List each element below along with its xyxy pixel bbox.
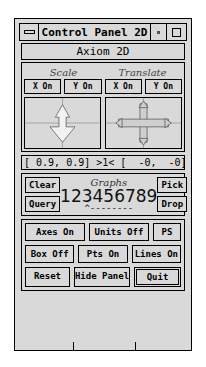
graphs-right-buttons: Pick Drop — [157, 177, 187, 212]
graphs-left-buttons: Clear Query — [25, 177, 60, 212]
quit-button-label: Quit — [136, 269, 179, 285]
quit-button[interactable]: Quit — [134, 267, 181, 287]
clear-button[interactable]: Clear — [25, 177, 60, 193]
panel-subtitle: Axiom 2D — [22, 44, 184, 59]
lines-toggle-button[interactable]: Lines On — [132, 245, 181, 263]
translate-drag-pad[interactable] — [105, 97, 182, 149]
window-title: Control Panel 2D — [39, 23, 151, 41]
transform-headers: Scale Translate — [24, 65, 182, 79]
ps-button[interactable]: PS — [153, 223, 181, 241]
dot-icon — [157, 31, 160, 34]
scale-y-toggle[interactable]: Y On — [64, 79, 101, 94]
panel-subtitle-bar: Axiom 2D — [21, 43, 185, 60]
hide-panel-button[interactable]: Hide Panel — [74, 267, 130, 287]
coordinate-readout: [ 0.9, 0.9] >1< [ -0, -0] — [21, 155, 185, 170]
window-maximize-button[interactable] — [167, 23, 187, 41]
translate-y-toggle[interactable]: Y On — [145, 79, 182, 94]
maximize-square-icon — [172, 28, 181, 37]
graphs-selector[interactable]: Graphs 123456789 ^-------- — [60, 177, 157, 212]
options-group: Axes On Units Off PS Box Off Pts On Line… — [21, 219, 185, 291]
frame-handle-right — [135, 342, 136, 350]
box-toggle-button[interactable]: Box Off — [25, 245, 74, 263]
transform-group: Scale Translate X On Y On X On Y On — [21, 62, 185, 152]
drop-button[interactable]: Drop — [157, 196, 187, 212]
frame-handle-left — [73, 342, 74, 350]
window-menu-button[interactable] — [151, 23, 167, 41]
query-button[interactable]: Query — [25, 196, 60, 212]
axes-toggle-button[interactable]: Axes On — [25, 223, 85, 241]
graphs-group: Clear Query Graphs 123456789 ^-------- P… — [21, 173, 185, 216]
title-bar: Control Panel 2D — [19, 23, 187, 41]
options-row-2: Box Off Pts On Lines On — [25, 245, 181, 263]
translate-header: Translate — [103, 65, 182, 79]
reset-button[interactable]: Reset — [25, 267, 70, 287]
four-way-arrow-icon — [106, 98, 181, 148]
options-row-1: Axes On Units Off PS — [25, 223, 181, 241]
transform-pads — [24, 97, 182, 149]
transform-toggle-row: X On Y On X On Y On — [24, 79, 182, 94]
scale-drag-pad[interactable] — [24, 97, 101, 149]
units-toggle-button[interactable]: Units Off — [89, 223, 149, 241]
graph-selection-marks: ^-------- — [84, 205, 133, 212]
vertical-double-arrow-icon — [25, 98, 100, 148]
window-minimize-button[interactable] — [19, 23, 39, 41]
control-panel-window: Control Panel 2D Axiom 2D Scale Translat… — [14, 18, 192, 351]
minimize-bar-icon — [24, 30, 35, 34]
scale-header: Scale — [24, 65, 103, 79]
screen: Control Panel 2D Axiom 2D Scale Translat… — [0, 0, 206, 367]
options-row-3: Reset Hide Panel Quit — [25, 267, 181, 287]
window-client-area: Control Panel 2D Axiom 2D Scale Translat… — [19, 23, 187, 342]
pts-toggle-button[interactable]: Pts On — [78, 245, 127, 263]
translate-x-toggle[interactable]: X On — [105, 79, 142, 94]
scale-x-toggle[interactable]: X On — [24, 79, 61, 94]
pick-button[interactable]: Pick — [157, 177, 187, 193]
